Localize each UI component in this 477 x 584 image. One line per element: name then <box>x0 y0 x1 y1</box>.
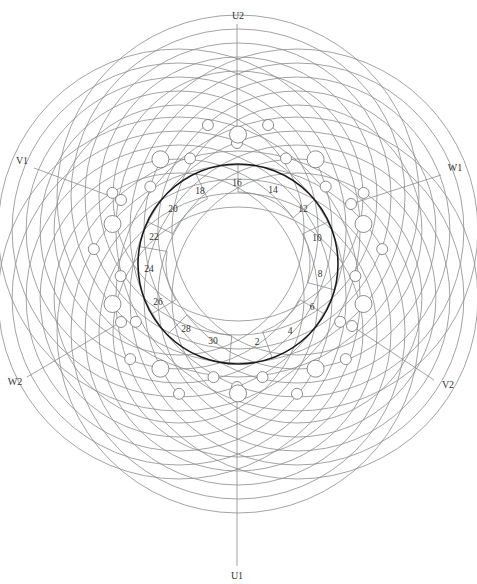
coil-end-node <box>358 187 369 198</box>
coil-end-node <box>307 360 324 377</box>
coil-end-node <box>263 120 274 131</box>
slot-number: 4 <box>288 326 293 336</box>
coil-end-node <box>320 181 331 192</box>
coil-end-node <box>355 216 372 233</box>
slot-number: 16 <box>232 178 242 188</box>
coil-end-node <box>174 388 185 399</box>
slot-number: 10 <box>312 233 322 243</box>
winding-diagram: 24681012141618202224262830 U2U1V1W1W2V2 <box>0 0 477 584</box>
coil-end-node <box>130 316 141 327</box>
coil-end-node <box>104 216 121 233</box>
slot-number: 28 <box>181 324 191 334</box>
coil-end-node <box>355 296 372 313</box>
slot-number: 26 <box>153 297 163 307</box>
coil-end-node <box>202 120 213 131</box>
coil-end-node <box>340 354 351 365</box>
terminal-labels: U2U1V1W1W2V2 <box>8 10 462 581</box>
slot-number: 30 <box>208 336 218 346</box>
coil-loop <box>12 131 346 465</box>
coil-end-node <box>145 181 156 192</box>
coil-end-node <box>104 296 121 313</box>
terminal-node-w2 <box>116 317 127 328</box>
terminal-node-w1 <box>346 199 357 210</box>
coil-wires <box>0 15 477 513</box>
coil-loop <box>12 63 346 397</box>
slot-number: 12 <box>298 204 308 214</box>
slot-number: 24 <box>144 264 154 274</box>
coil-end-node <box>152 151 169 168</box>
coil-end-node <box>125 354 136 365</box>
coil-end-node <box>230 126 247 143</box>
coil-end-node <box>350 271 361 282</box>
slot-number: 14 <box>268 185 278 195</box>
coil-loop <box>130 63 464 397</box>
lead-w2 <box>27 322 121 377</box>
coil-end-node <box>335 316 346 327</box>
coil-end-node <box>88 244 99 255</box>
terminal-label-w2: W2 <box>8 376 22 387</box>
coil-end-node <box>257 372 268 383</box>
coil-end-node <box>115 271 126 282</box>
terminal-label-u2: U2 <box>232 10 244 21</box>
coil-end-node <box>152 360 169 377</box>
coil-end-node <box>208 372 219 383</box>
lead-v2 <box>352 326 434 380</box>
slot-number: 20 <box>168 204 178 214</box>
terminal-node-v2 <box>347 321 358 332</box>
terminal-label-u1: U1 <box>231 570 243 581</box>
slot-number: 2 <box>255 337 260 347</box>
coil-end-node <box>107 187 118 198</box>
terminal-label-w1: W1 <box>448 162 462 173</box>
terminal-label-v1: V1 <box>16 155 28 166</box>
slot-number: 8 <box>318 269 323 279</box>
slot-numbers: 24681012141618202224262830 <box>144 178 322 347</box>
coil-end-node <box>281 153 292 164</box>
coil-end-node <box>292 388 303 399</box>
coil-loop <box>57 151 419 513</box>
coil-loop <box>71 165 405 499</box>
slot-number: 18 <box>195 186 205 196</box>
coil-end-nodes <box>88 120 387 402</box>
coil-loop <box>130 131 464 465</box>
coil-end-node <box>230 385 247 402</box>
slot-number: 22 <box>149 232 159 242</box>
coil-end-node <box>185 153 196 164</box>
coil-end-node <box>307 151 324 168</box>
terminal-label-v2: V2 <box>442 379 454 390</box>
slot-number: 6 <box>310 302 315 312</box>
coil-end-node <box>377 244 388 255</box>
